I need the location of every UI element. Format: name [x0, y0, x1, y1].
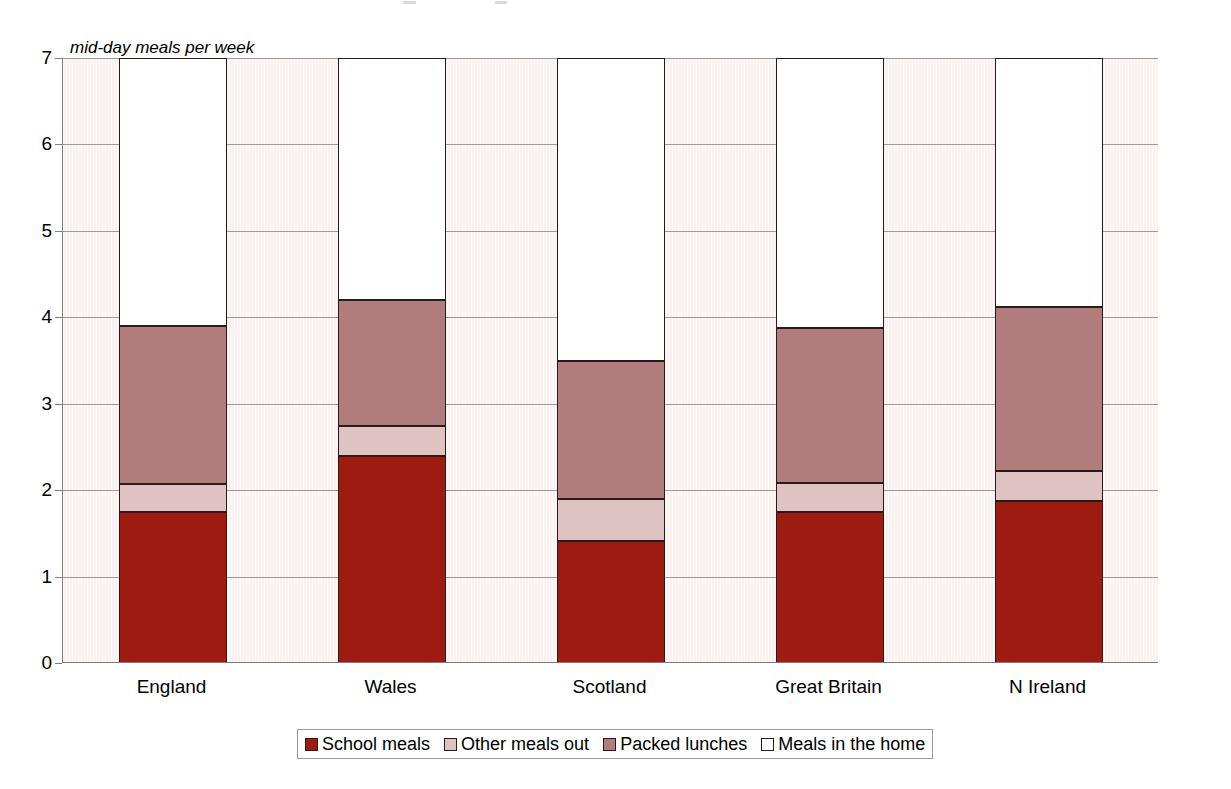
x-axis-baseline	[63, 662, 1158, 663]
y-axis-tick	[55, 490, 62, 491]
bar-segment[interactable]	[557, 541, 665, 663]
bar-segment[interactable]	[776, 512, 884, 663]
legend-swatch-icon	[444, 738, 457, 751]
y-axis-tick-label-wrap: 7	[0, 48, 52, 67]
bar-segment[interactable]	[119, 512, 227, 663]
bar-segment[interactable]	[995, 307, 1103, 471]
y-axis-tick-label-wrap: 6	[0, 134, 52, 153]
legend-label: Packed lunches	[620, 735, 747, 753]
bar-segment[interactable]	[119, 484, 227, 512]
legend-swatch-icon	[305, 738, 318, 751]
bar-group[interactable]	[776, 58, 884, 663]
y-axis-tick	[55, 663, 62, 664]
x-axis-category-label: Great Britain	[719, 676, 939, 698]
y-axis-tick-label: 4	[12, 307, 52, 326]
x-axis-category-label: N Ireland	[938, 676, 1158, 698]
y-axis-tick	[55, 404, 62, 405]
legend-item[interactable]: School meals	[305, 735, 430, 753]
bar-segment[interactable]	[776, 328, 884, 484]
bar-segment[interactable]	[557, 361, 665, 499]
y-axis-tick-label-wrap: 3	[0, 394, 52, 413]
y-axis-tick-label: 1	[12, 567, 52, 586]
y-axis-title: mid-day meals per week	[70, 38, 254, 58]
cropped-title-artifact-left	[403, 1, 416, 4]
legend-swatch-icon	[761, 738, 774, 751]
y-axis-tick-label-wrap: 1	[0, 567, 52, 586]
bar-segment[interactable]	[338, 426, 446, 455]
legend-label: Other meals out	[461, 735, 589, 753]
legend-items: School mealsOther meals outPacked lunche…	[305, 735, 925, 753]
legend-swatch-icon	[603, 738, 616, 751]
y-axis-tick-label: 6	[12, 134, 52, 153]
x-axis-category-label: England	[62, 676, 282, 698]
y-axis-tick-label-wrap: 0	[0, 653, 52, 672]
y-axis-tick-label: 3	[12, 394, 52, 413]
y-axis-tick-label: 7	[12, 48, 52, 67]
bar-segment[interactable]	[995, 501, 1103, 663]
plot-area	[62, 58, 1158, 663]
y-axis-tick	[55, 231, 62, 232]
bar-segment[interactable]	[995, 471, 1103, 501]
y-axis-tick	[55, 144, 62, 145]
legend-label: School meals	[322, 735, 430, 753]
legend-item[interactable]: Meals in the home	[761, 735, 925, 753]
bar-segment[interactable]	[338, 300, 446, 426]
bar-segment[interactable]	[338, 456, 446, 663]
legend-label: Meals in the home	[778, 735, 925, 753]
y-axis-tick-label-wrap: 2	[0, 480, 52, 499]
legend-item[interactable]: Packed lunches	[603, 735, 747, 753]
y-axis-tick	[55, 58, 62, 59]
bar-segment[interactable]	[995, 58, 1103, 307]
bar-group[interactable]	[995, 58, 1103, 663]
y-axis-tick-label-wrap: 4	[0, 307, 52, 326]
cropped-title-artifact-right	[495, 1, 507, 4]
bar-group[interactable]	[338, 58, 446, 663]
bar-group[interactable]	[557, 58, 665, 663]
bar-segment[interactable]	[776, 483, 884, 512]
x-axis-category-label: Scotland	[500, 676, 720, 698]
chart-legend: School mealsOther meals outPacked lunche…	[297, 729, 933, 759]
y-axis-tick-label: 0	[12, 653, 52, 672]
y-axis-tick-label-wrap: 5	[0, 221, 52, 240]
legend-item[interactable]: Other meals out	[444, 735, 589, 753]
bar-segment[interactable]	[119, 326, 227, 484]
bar-segment[interactable]	[338, 58, 446, 300]
bar-segment[interactable]	[557, 499, 665, 541]
y-axis-tick-label: 2	[12, 480, 52, 499]
bar-group[interactable]	[119, 58, 227, 663]
y-axis-tick	[55, 577, 62, 578]
x-axis-category-label: Wales	[281, 676, 501, 698]
bar-segment[interactable]	[776, 58, 884, 328]
stacked-bar-chart: mid-day meals per week 01234567 EnglandW…	[0, 0, 1231, 789]
y-axis-tick-label: 5	[12, 221, 52, 240]
bar-segment[interactable]	[557, 58, 665, 361]
y-axis-tick	[55, 317, 62, 318]
bar-segment[interactable]	[119, 58, 227, 326]
